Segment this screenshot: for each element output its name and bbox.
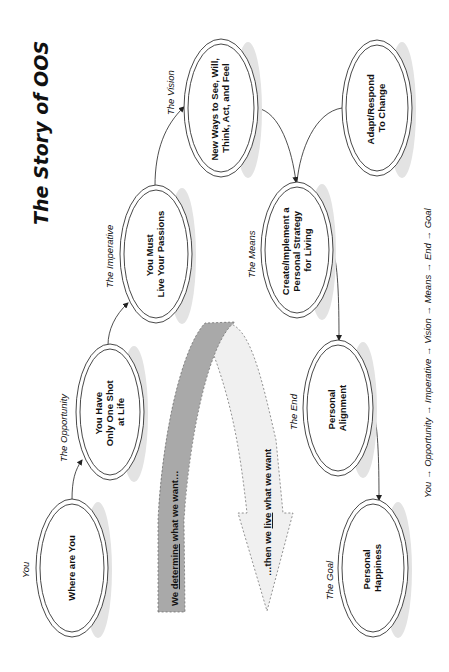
page-title: The Story of OOS <box>30 41 52 225</box>
node-opportunity: The Opportunity You Have Only One Shot a… <box>58 344 148 482</box>
stage-label: The End <box>288 393 299 430</box>
live-band-shape <box>208 323 293 611</box>
node-label: Personal Happiness <box>361 544 383 592</box>
connector-adapt-means <box>297 108 342 182</box>
node-label: Personal Alignment <box>326 384 348 431</box>
connector-vision-means <box>257 108 296 182</box>
node-vision: The Vision New Ways to See, Will, Think,… <box>165 39 262 178</box>
stage-label: The Means <box>246 230 257 278</box>
node-label: Where are You <box>66 535 77 601</box>
determine-live-band: We determine what we want… …then we live… <box>158 322 293 612</box>
stage-label: You <box>20 561 31 578</box>
node-end: The End Personal Alignment <box>288 340 377 478</box>
oos-diagram: The Story of OOS We determine what we wa… <box>0 0 449 672</box>
live-text: …then we live what we want <box>262 448 273 576</box>
sequence-caption: You → Opportunity → Imperative → Vision … <box>422 207 433 498</box>
stage-label: The Goal <box>324 560 335 600</box>
connector-opportunity-imperative <box>108 303 128 345</box>
node-imperative: The Imperative You Must Live Your Passio… <box>104 185 196 324</box>
node-label: New Ways to See, Will, Think, Act, and F… <box>209 55 231 160</box>
stage-label: The Vision <box>165 70 176 115</box>
stage-label: The Imperative <box>104 225 115 288</box>
stage-label: The Opportunity <box>58 393 69 462</box>
node-goal: The Goal Personal Happiness <box>324 499 412 638</box>
determine-text: We determine what we want… <box>169 471 180 607</box>
node-you: You Where are You <box>20 499 112 638</box>
connector-you-opportunity <box>72 460 82 500</box>
node-means: The Means Create/Implement a Personal St… <box>246 182 336 320</box>
connector-imperative-vision <box>155 107 184 186</box>
node-adapt: Adapt/Respond To Change <box>342 40 416 178</box>
